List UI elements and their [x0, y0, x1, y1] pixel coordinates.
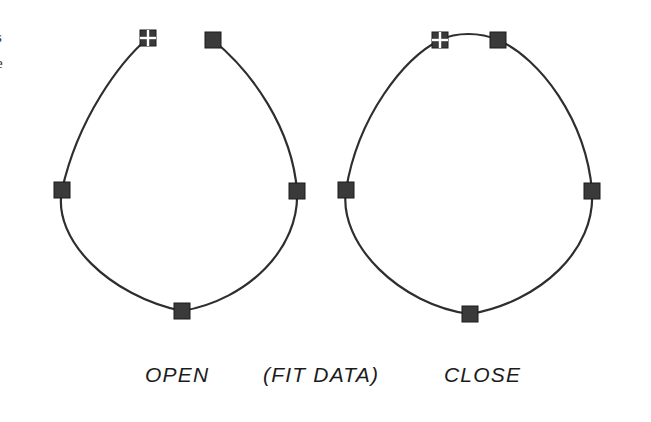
- open-curve-label: OPEN: [145, 363, 209, 387]
- close-right-point-marker[interactable]: [584, 183, 600, 199]
- close-curve-group: [345, 34, 592, 314]
- close-end-point-marker[interactable]: [490, 32, 506, 48]
- fit-data-label: (FIT DATA): [263, 363, 379, 387]
- close-curve-markers: [338, 32, 600, 322]
- solid-square-icon: [462, 306, 478, 322]
- solid-square-icon: [584, 183, 600, 199]
- solid-square-icon: [338, 182, 354, 198]
- open-bottom-point-marker[interactable]: [174, 303, 190, 319]
- open-curve-path: [61, 38, 297, 311]
- solid-square-icon: [54, 182, 70, 198]
- solid-square-icon: [174, 303, 190, 319]
- close-left-point-marker[interactable]: [338, 182, 354, 198]
- figure-page: s e: [0, 0, 651, 422]
- open-curve-group: [61, 38, 297, 311]
- open-right-point-marker[interactable]: [289, 183, 305, 199]
- open-end-point-marker[interactable]: [205, 32, 221, 48]
- spline-figure-canvas: [0, 0, 651, 422]
- close-bottom-point-marker[interactable]: [462, 306, 478, 322]
- open-left-point-marker[interactable]: [54, 182, 70, 198]
- open-curve-markers: [54, 30, 305, 319]
- solid-square-icon: [205, 32, 221, 48]
- close-curve-label: CLOSE: [444, 363, 521, 387]
- solid-square-icon: [289, 183, 305, 199]
- close-start-point-marker[interactable]: [432, 32, 448, 48]
- close-curve-path: [345, 34, 592, 314]
- solid-square-icon: [490, 32, 506, 48]
- open-start-point-marker[interactable]: [140, 30, 156, 46]
